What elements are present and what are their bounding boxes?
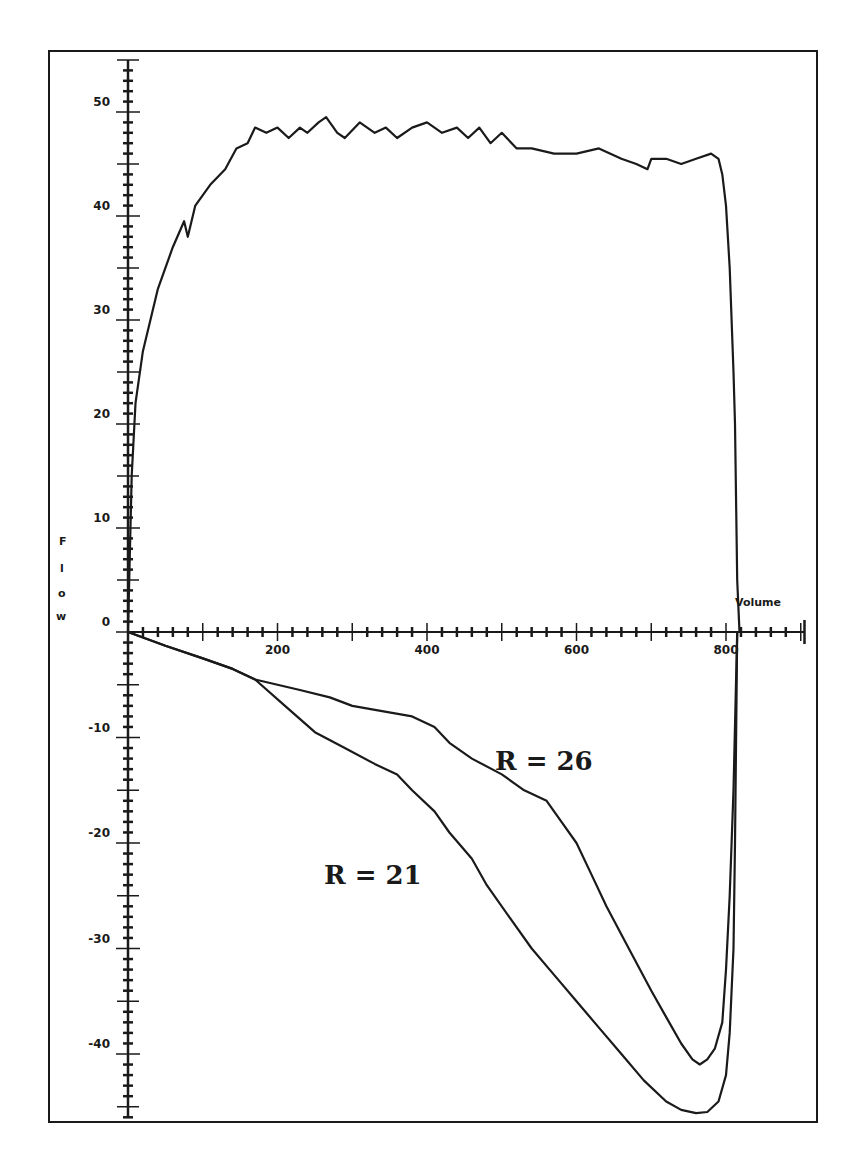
annotation-r21: R = 21 bbox=[324, 860, 422, 890]
y-tick-label: 20 bbox=[93, 407, 110, 421]
y-tick-label: 40 bbox=[93, 199, 110, 213]
y-tick-labels: 50403020100-10-20-30-40 bbox=[88, 95, 110, 1051]
y-axis-title-letter: o bbox=[58, 587, 66, 600]
y-axis-title-letter: l bbox=[60, 562, 64, 575]
series-line-1 bbox=[128, 632, 737, 1065]
y-tick-label: 0 bbox=[102, 615, 110, 629]
y-tick-label: 30 bbox=[93, 303, 110, 317]
y-tick-label: 50 bbox=[93, 95, 110, 109]
series-line-0 bbox=[128, 117, 740, 632]
y-tick-label: -10 bbox=[88, 721, 110, 735]
annotation-r26: R = 26 bbox=[495, 746, 593, 776]
y-tick-label: -30 bbox=[88, 932, 110, 946]
x-axis bbox=[128, 620, 804, 644]
y-tick-label: -20 bbox=[88, 826, 110, 840]
chart-frame bbox=[49, 51, 817, 1122]
y-tick-label: 10 bbox=[93, 511, 110, 525]
x-tick-label: 600 bbox=[564, 643, 589, 657]
x-tick-label: 400 bbox=[414, 643, 439, 657]
x-tick-label: 200 bbox=[265, 643, 290, 657]
y-axis-title: F l o w bbox=[56, 535, 67, 623]
flow-volume-chart: 50403020100-10-20-30-40 200400600800 Vol… bbox=[0, 0, 856, 1150]
x-tick-label: 800 bbox=[713, 643, 738, 657]
x-tick-labels: 200400600800 bbox=[265, 643, 739, 657]
series-layer bbox=[128, 117, 740, 1113]
x-axis-title: Volume bbox=[735, 596, 781, 609]
series-line-2 bbox=[128, 632, 737, 1113]
y-axis-title-letter: F bbox=[59, 535, 67, 548]
y-tick-label: -40 bbox=[88, 1037, 110, 1051]
y-axis-title-letter: w bbox=[56, 610, 66, 623]
